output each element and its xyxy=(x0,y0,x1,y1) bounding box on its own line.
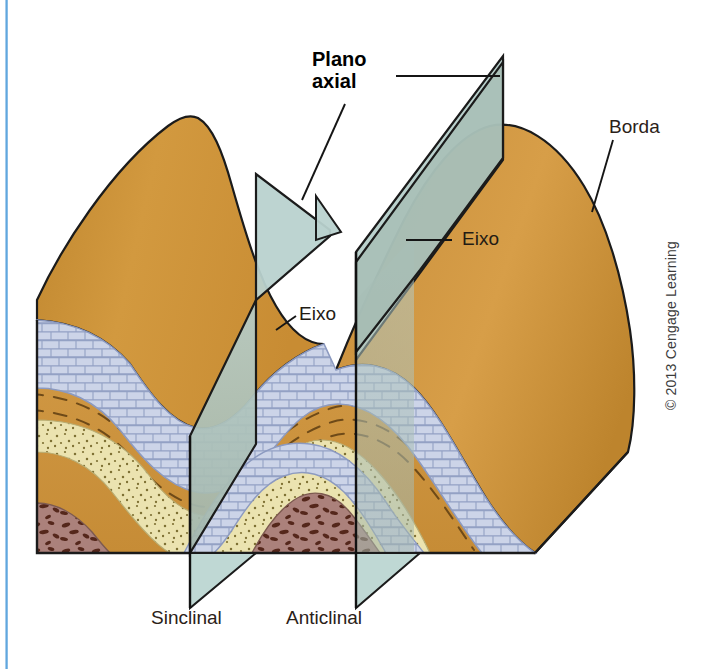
block-diagram-illustration xyxy=(0,0,725,669)
label-plano-axial: Plano axial xyxy=(312,48,366,93)
label-eixo-syncline: Eixo xyxy=(299,303,336,324)
axial-plane-anticline-below xyxy=(356,553,420,608)
label-sinclinal: Sinclinal xyxy=(151,607,222,628)
figure-page: Plano axial Borda Eixo Eixo Sinclinal An… xyxy=(0,0,725,669)
copyright-credit: © 2013 Cengage Learning xyxy=(663,210,679,410)
label-anticlinal: Anticlinal xyxy=(286,607,362,628)
label-borda: Borda xyxy=(609,116,660,137)
axial-plane-syncline-sliver xyxy=(316,196,341,240)
leader-borda xyxy=(592,140,613,212)
label-eixo-anticline: Eixo xyxy=(462,228,499,249)
axial-plane-syncline-below xyxy=(190,553,256,608)
leader-plano-axial-left xyxy=(302,104,345,200)
